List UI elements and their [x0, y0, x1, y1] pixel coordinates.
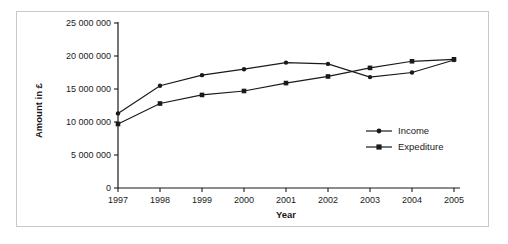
legend-item-label: Income [398, 126, 429, 136]
x-axis-tick-label: 2004 [392, 196, 432, 205]
y-axis-tick-label: 10 000 000 [66, 118, 111, 127]
x-axis-tick-label: 1998 [140, 196, 180, 205]
legend-item-label: Expediture [398, 142, 443, 152]
x-axis-tick-label: 2001 [266, 196, 306, 205]
y-axis-tick-label: 5 000 000 [71, 151, 111, 160]
y-axis-tick-label: 0 [106, 184, 111, 193]
x-axis-tick-label: 2000 [224, 196, 264, 205]
y-axis-tick-label: 20 000 000 [66, 52, 111, 61]
chart-series [116, 57, 457, 126]
chart-axes [114, 22, 460, 192]
x-axis-tick-label: 2002 [308, 196, 348, 205]
x-axis-tick-label: 2005 [434, 196, 474, 205]
chart-figure: 05 000 00010 000 00015 000 00020 000 000… [0, 0, 508, 244]
y-axis-tick-label: 25 000 000 [66, 19, 111, 28]
x-axis-tick-label: 1999 [182, 196, 222, 205]
legend-marks [366, 129, 392, 150]
x-axis-tick-label: 1997 [98, 196, 138, 205]
y-axis-title: Amount in £ [34, 83, 44, 138]
x-axis-tick-label: 2003 [350, 196, 390, 205]
x-axis-title: Year [246, 210, 326, 220]
y-axis-tick-label: 15 000 000 [66, 85, 111, 94]
